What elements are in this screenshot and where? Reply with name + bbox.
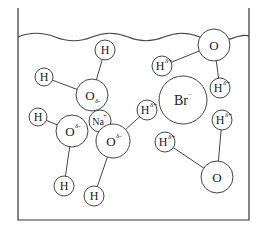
atom-o3: Oδ- xyxy=(96,124,130,158)
atoms: HHOδ-HOδ-Na+Oδ-HHHδ+Br−Hδ+OHδ+Hδ+Hδ+O xyxy=(29,29,233,206)
atom-o1: Oδ- xyxy=(76,79,108,111)
charge-label: δ+ xyxy=(223,79,230,87)
charge-label: δ- xyxy=(95,97,101,105)
atom-h8: Hδ+ xyxy=(210,78,230,98)
atom-label: H xyxy=(101,43,110,57)
atom-br: Br− xyxy=(159,76,207,124)
atom-h1: H xyxy=(95,40,115,60)
atom-label: O xyxy=(212,170,221,185)
atom-label: O xyxy=(65,124,74,139)
atom-label: H xyxy=(90,189,99,203)
solvation-diagram: HHOδ-HOδ-Na+Oδ-HHHδ+Br−Hδ+OHδ+Hδ+Hδ+O xyxy=(0,0,263,231)
charge-label: δ+ xyxy=(168,133,175,141)
charge-label: δ- xyxy=(75,122,81,130)
charge-label: − xyxy=(188,91,192,99)
atom-label: H xyxy=(141,103,150,117)
atom-label: O xyxy=(209,38,218,53)
atom-h10: Hδ+ xyxy=(155,132,175,152)
atom-h2: H xyxy=(35,68,53,86)
atom-label: H xyxy=(40,70,49,84)
atom-h7: Hδ+ xyxy=(152,56,172,76)
atom-label: H xyxy=(159,135,168,149)
atom-h9: Hδ+ xyxy=(212,110,232,130)
atom-label: O xyxy=(106,134,115,149)
charge-label: δ- xyxy=(116,132,122,140)
atom-o4: O xyxy=(198,29,230,61)
atom-label: H xyxy=(60,179,69,193)
atom-label: Br xyxy=(174,93,188,108)
atom-h5: H xyxy=(84,186,104,206)
atom-label: H xyxy=(34,110,43,124)
charge-label: δ+ xyxy=(150,101,157,109)
atom-label: H xyxy=(156,59,165,73)
charge-label: δ+ xyxy=(165,57,172,65)
charge-label: + xyxy=(103,112,107,120)
atom-h4: H xyxy=(54,176,74,196)
atom-label: O xyxy=(85,88,94,103)
atom-label: H xyxy=(216,113,225,127)
atom-o5: O xyxy=(201,161,233,193)
atom-h3: H xyxy=(29,108,47,126)
charge-label: δ+ xyxy=(225,111,232,119)
atom-h6: Hδ+ xyxy=(137,100,157,120)
atom-label: H xyxy=(214,81,223,95)
atom-o2: Oδ- xyxy=(56,115,88,147)
